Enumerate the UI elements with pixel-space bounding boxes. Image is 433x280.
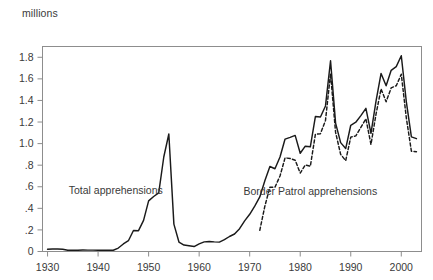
x-axis-tick-labels: 19301940195019601970198019902000 (36, 261, 413, 273)
line-chart: 19301940195019601970198019902000 0.2.4.6… (0, 0, 433, 280)
y-tick-label: 1.8 (19, 51, 34, 63)
y-tick-label: 1.2 (19, 116, 34, 128)
chart-container: millions 1930194019501960197019801990200… (0, 0, 433, 280)
x-tick-label: 1990 (339, 261, 363, 273)
x-tick-label: 2000 (390, 261, 414, 273)
y-tick-label: 1.6 (19, 72, 34, 84)
x-tick-label: 1950 (137, 261, 161, 273)
plot-frame (43, 47, 422, 252)
y-axis-ticks (38, 57, 43, 251)
y-tick-label: 1.4 (19, 94, 34, 106)
x-tick-label: 1970 (238, 261, 262, 273)
x-tick-label: 1980 (289, 261, 313, 273)
y-tick-label: .4 (25, 202, 34, 214)
x-tick-label: 1940 (86, 261, 110, 273)
series-line (260, 74, 417, 231)
y-tick-label: .2 (25, 224, 34, 236)
series-annotations: Total apprehensionsBorder Patrol apprehe… (69, 184, 377, 197)
series-annotation-label: Total apprehensions (69, 184, 163, 196)
x-axis-ticks (48, 252, 402, 257)
series-line (48, 56, 417, 251)
y-tick-label: .6 (25, 180, 34, 192)
y-axis-tick-labels: 0.2.4.6.81.01.21.41.61.8 (19, 51, 34, 257)
series-annotation-label: Border Patrol apprehensions (243, 185, 377, 197)
x-tick-label: 1960 (187, 261, 211, 273)
y-tick-label: 0 (28, 245, 34, 257)
data-series-group (48, 56, 417, 251)
x-tick-label: 1930 (36, 261, 60, 273)
y-tick-label: .8 (25, 159, 34, 171)
y-tick-label: 1.0 (19, 137, 34, 149)
